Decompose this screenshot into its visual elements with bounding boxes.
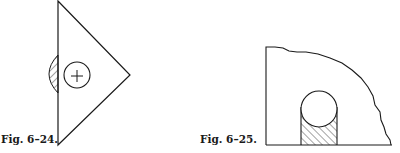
figure-6-25 [266,47,392,145]
figure-6-24 [49,1,130,145]
caption-fig-6-24: Fig. 6–24. [1,133,58,145]
hatched-half-lens [49,55,58,93]
circle [301,91,337,127]
figures-canvas [0,0,400,153]
triangle [58,1,130,145]
caption-fig-6-25: Fig. 6–25. [200,133,257,145]
